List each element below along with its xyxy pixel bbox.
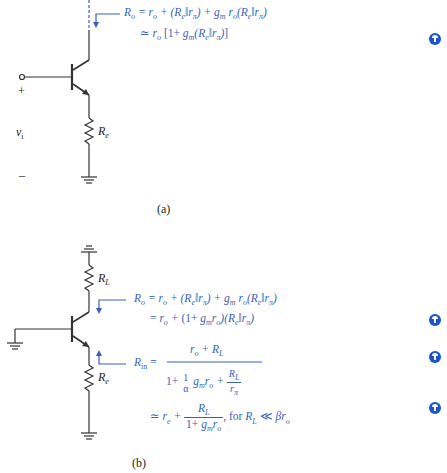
re-resistor-b	[85, 365, 93, 391]
ro-equation-a-line2: ≃ ro [1+ gm(Re‖rπ)]	[140, 26, 228, 42]
re-label-a: Re	[98, 124, 109, 140]
re-sub: e	[105, 131, 109, 140]
rin-numerator: ro + RL	[190, 343, 223, 358]
rl-sub: L	[105, 278, 109, 287]
ro-equation-a-line1: Ro = ro + (Re‖rπ) + gm ro(Re‖rπ)	[124, 6, 267, 21]
rin-denominator: 1+ 1α gmro + RLrπ	[166, 368, 241, 397]
note-icon-b-rin[interactable]	[429, 351, 441, 363]
ro-equation-b-line1: Ro = ro + (Re‖rπ) + gm ro(Re‖rπ)	[134, 292, 277, 307]
input-terminal-a	[20, 75, 25, 80]
vi-sub: i	[21, 132, 23, 141]
caption-b: (b)	[132, 456, 146, 471]
rin-label: Rin =	[134, 356, 157, 371]
input-voltage-label: vi	[16, 125, 24, 141]
note-icon-b-ro[interactable]	[429, 314, 441, 326]
rl-label-b: RL	[98, 271, 110, 287]
re-label-b: Re	[98, 370, 109, 386]
re-resistor-a	[85, 118, 93, 144]
rin-approx-equation: ≃ re + RL1+ gmro, for RL ≪ βro	[150, 402, 290, 434]
emitter-arrow-a	[82, 89, 89, 95]
rl-resistor-b	[85, 265, 93, 291]
note-icon-a[interactable]	[429, 33, 441, 45]
minus-sign: –	[19, 168, 25, 183]
re-b-sub: e	[105, 377, 109, 386]
note-icon-b-approx[interactable]	[429, 402, 441, 414]
caption-a: (a)	[157, 202, 170, 217]
ro-equation-b-line2: = ro + (1+ gmro)(Re‖rπ)	[150, 312, 254, 327]
plus-sign: +	[18, 84, 25, 99]
